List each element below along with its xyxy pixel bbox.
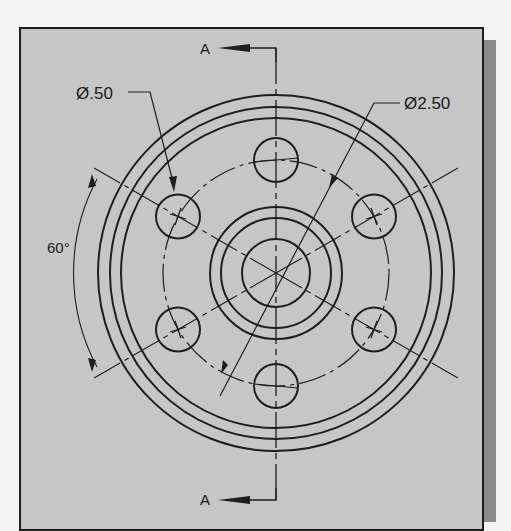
hole-leader-arrow-icon: [169, 176, 177, 192]
angle-arrow-top-icon: [88, 174, 96, 188]
section-line-bottom-leg: [250, 488, 276, 500]
bolt-circle-diameter-label: Ø2.50: [404, 95, 450, 112]
section-label-top: A: [200, 41, 210, 56]
bolt-leader-arrow-bottom-icon: [221, 360, 228, 374]
section-arrow-bottom-icon: [218, 496, 250, 504]
hole-diameter-leader: [128, 92, 174, 186]
section-label-bottom: A: [200, 492, 210, 507]
angle-label: 60°: [47, 240, 70, 255]
section-line-top-leg: [250, 48, 276, 62]
section-arrow-top-icon: [218, 44, 250, 52]
hole-diameter-label: Ø.50: [76, 85, 113, 102]
bolt-leader-arrow-top-icon: [329, 174, 338, 188]
angle-dimension-arc: [74, 179, 97, 367]
angle-arrow-bottom-icon: [88, 358, 96, 372]
